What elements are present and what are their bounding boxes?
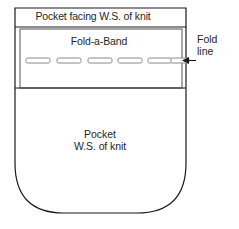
fold-a-band-label: Fold-a-Band xyxy=(12,35,186,47)
fold-dash xyxy=(88,58,112,63)
pocket-label-line2: W.S. of knit xyxy=(14,140,186,152)
fold-dash xyxy=(118,58,142,63)
fold-line-label-line2: line xyxy=(197,45,217,57)
fold-line-label: Fold line xyxy=(197,33,217,58)
fold-dash xyxy=(148,58,172,63)
fold-line-label-line1: Fold xyxy=(197,33,217,45)
pocket-label: Pocket W.S. of knit xyxy=(14,128,186,153)
pocket-facing-label: Pocket facing W.S. of knit xyxy=(0,10,186,22)
fold-dash xyxy=(57,58,81,63)
fold-dash xyxy=(26,58,50,63)
pocket-label-line1: Pocket xyxy=(84,128,116,140)
pocket-pattern-diagram: Pocket facing W.S. of knit Fold-a-Band P… xyxy=(0,0,239,229)
